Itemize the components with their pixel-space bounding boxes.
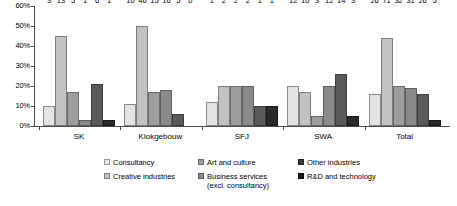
bar-slot: 15	[148, 6, 160, 126]
bar[interactable]: 10	[124, 104, 136, 126]
legend-item-label: Art and culture	[207, 158, 256, 167]
bar-slot: 46	[136, 6, 148, 126]
legend-swatch-icon	[298, 159, 304, 165]
bar[interactable]: 26	[369, 94, 381, 126]
bar-slot: 14	[335, 6, 347, 126]
legend-item[interactable]: Creative industries	[104, 172, 198, 190]
bars-container: 3135161SK1046151650Klokgebouw122211SFJ12…	[35, 6, 450, 126]
legend-item-label: Consultancy	[113, 158, 154, 167]
bar[interactable]: 3	[347, 116, 359, 126]
y-axis: 0%10%20%30%40%50%60%	[0, 6, 34, 126]
bar-group: 122211	[206, 6, 278, 126]
bar[interactable]: 2	[230, 86, 242, 126]
bar-slot: 3	[347, 6, 359, 126]
bar-group: 1046151650	[124, 6, 196, 126]
chart-legend: ConsultancyArt and cultureOther industri…	[104, 158, 404, 190]
bar-slot: 12	[323, 6, 335, 126]
y-axis-tick-mark	[31, 6, 35, 7]
bar-value-label: 2	[246, 0, 250, 5]
bar-slot: 13	[55, 6, 67, 126]
bar[interactable]: 12	[287, 86, 299, 126]
bar-slot: 2	[230, 6, 242, 126]
bar-value-label: 12	[325, 0, 333, 5]
x-axis-category-label: Total	[369, 132, 441, 142]
bar[interactable]: 14	[335, 74, 347, 126]
bar-slot: 1	[254, 6, 266, 126]
bar[interactable]: 1	[103, 120, 115, 126]
bar-value-label: 6	[95, 0, 99, 5]
bar[interactable]: 6	[91, 84, 103, 126]
legend-swatch-icon	[298, 173, 304, 179]
bar[interactable]: 1	[254, 106, 266, 126]
legend-swatch-icon	[104, 173, 110, 179]
bar[interactable]: 5	[172, 114, 184, 126]
bar-value-label: 1	[210, 0, 214, 5]
bar-value-label: 14	[337, 0, 345, 5]
x-axis-category-label: Klokgebouw	[124, 132, 196, 142]
bar-slot: 2	[242, 6, 254, 126]
bar[interactable]: 26	[417, 94, 429, 126]
y-axis-tick-mark	[31, 26, 35, 27]
bar-slot: 12	[287, 6, 299, 126]
bar[interactable]: 5	[67, 92, 79, 126]
x-axis-line	[34, 126, 450, 127]
bar[interactable]: 3	[43, 106, 55, 126]
y-axis-tick-label: 30%	[16, 62, 30, 70]
bar-slot: 1	[79, 6, 91, 126]
y-axis-tick-label: 20%	[16, 82, 30, 90]
bar[interactable]: 5	[429, 120, 441, 126]
bar[interactable]: 2	[242, 86, 254, 126]
bar[interactable]: 2	[218, 86, 230, 126]
legend-item[interactable]: Other industries	[298, 158, 404, 167]
bar-slot: 31	[405, 6, 417, 126]
bar-slot: 5	[67, 6, 79, 126]
bar-value-label: 3	[315, 0, 319, 5]
bar-group: 26713231265	[369, 6, 441, 126]
bar-value-label: 15	[150, 0, 158, 5]
bar-value-label: 0	[188, 0, 192, 5]
bar-slot: 1	[206, 6, 218, 126]
bar[interactable]: 46	[136, 26, 148, 126]
legend-item-label: Other industries	[307, 158, 360, 167]
bar[interactable]: 16	[160, 90, 172, 126]
y-axis-tick-mark	[31, 66, 35, 67]
bar[interactable]: 31	[405, 88, 417, 126]
legend-item[interactable]: Consultancy	[104, 158, 198, 167]
legend-item[interactable]: Art and culture	[198, 158, 298, 167]
bar-value-label: 5	[71, 0, 75, 5]
plot-area: 0%10%20%30%40%50%60% 3135161SK1046151650…	[0, 6, 457, 148]
y-axis-tick-mark	[31, 106, 35, 107]
bar[interactable]: 1	[206, 102, 218, 126]
bar-value-label: 3	[351, 0, 355, 5]
bar-value-label: 10	[301, 0, 309, 5]
x-axis-tick-mark	[39, 126, 40, 130]
bar[interactable]: 3	[311, 116, 323, 126]
bar[interactable]: 12	[323, 86, 335, 126]
bar-value-label: 46	[138, 0, 146, 5]
y-axis-tick-label: 40%	[16, 42, 30, 50]
bar-value-label: 71	[382, 0, 390, 5]
bar-slot: 0	[184, 6, 196, 126]
y-axis-tick-label: 0%	[20, 122, 30, 130]
bar[interactable]: 1	[266, 106, 278, 126]
bar[interactable]: 32	[393, 86, 405, 126]
bar-value-label: 26	[370, 0, 378, 5]
x-axis-tick-mark	[202, 126, 203, 130]
bar[interactable]: 10	[299, 92, 311, 126]
bar[interactable]: 15	[148, 92, 160, 126]
y-axis-tick-label: 10%	[16, 102, 30, 110]
bar[interactable]: 13	[55, 36, 67, 126]
legend-item[interactable]: R&D and technology	[298, 172, 404, 190]
bar-slot: 1	[266, 6, 278, 126]
bar-group-bars: 3135161	[43, 6, 115, 126]
legend-item[interactable]: Business services (excl. consultancy)	[198, 172, 298, 190]
bar-group-bars: 26713231265	[369, 6, 441, 126]
bar-slot: 2	[218, 6, 230, 126]
legend-item-label: R&D and technology	[307, 172, 376, 181]
bar[interactable]: 71	[381, 38, 393, 126]
bar[interactable]: 1	[79, 120, 91, 126]
bar-group: 3135161	[43, 6, 115, 126]
x-axis-category-label: SK	[43, 132, 115, 142]
x-axis-tick-mark	[283, 126, 284, 130]
legend-swatch-icon	[198, 159, 204, 165]
